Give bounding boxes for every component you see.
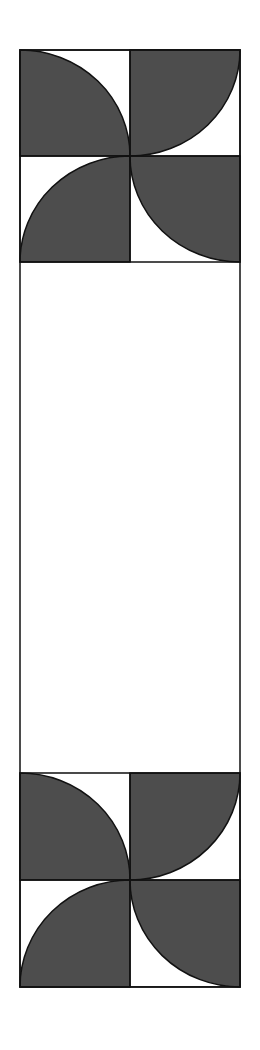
bottom-pinwheel-block — [20, 773, 240, 987]
top-pinwheel-block — [20, 50, 240, 262]
pinwheel-diagram — [0, 0, 260, 1050]
